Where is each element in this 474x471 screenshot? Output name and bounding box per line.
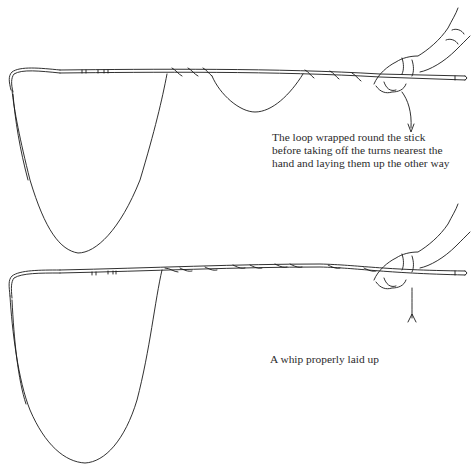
bottom-whip-figure: [9, 204, 470, 463]
top-caption-line-1: The loop wrapped round the stick: [272, 131, 449, 144]
bottom-caption: A whip properly laid up: [270, 353, 379, 366]
top-caption-line-3: hand and laying them up the other way: [272, 157, 449, 170]
top-caption-line-2: before taking off the turns nearest the: [272, 144, 449, 157]
top-caption: The loop wrapped round the stick before …: [272, 131, 449, 170]
bottom-caption-line-1: A whip properly laid up: [270, 353, 379, 365]
whip-illustration: [0, 0, 474, 471]
